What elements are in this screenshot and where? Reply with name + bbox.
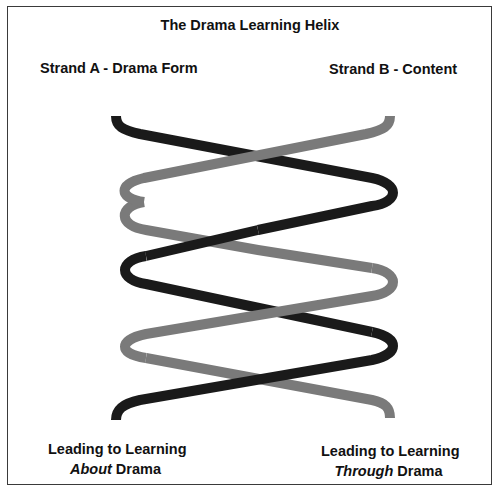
outcome-right-rest: Drama [393,463,442,479]
outcome-right-emphasis: Through [335,463,394,479]
strand-b-path-3 [125,268,393,358]
outcome-right-line1: Leading to Learning [321,441,456,461]
helix-diagram [0,0,500,493]
strand-b-path-1 [125,116,391,202]
outcome-right-line2: Through Drama [321,461,456,481]
outcome-left-line1: Leading to Learning [48,439,183,459]
strand-a-path-4 [116,332,393,420]
outcome-left-line2: About Drama [48,459,183,479]
outcome-left-emphasis: About [70,461,112,477]
outcome-left-rest: Drama [112,461,161,477]
outcome-right-label: Leading to Learning Through Drama [321,441,456,481]
outcome-left-label: Leading to Learning About Drama [48,439,183,479]
